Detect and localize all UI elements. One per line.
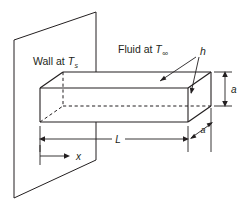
- wall-label-text: Wall at: [33, 55, 68, 67]
- fin-front-face: [40, 88, 188, 122]
- fin-top-face: [40, 72, 211, 88]
- h-label: h: [200, 45, 206, 57]
- dimension-height-a: [214, 71, 232, 107]
- wall-edge-top: [14, 12, 96, 40]
- fluid-label: Fluid at T∞: [118, 43, 168, 58]
- wall-edge-bottom: [14, 160, 96, 198]
- wall-label: Wall at Ts: [33, 55, 79, 69]
- heat-transfer-fin-diagram: Wall at Ts Fluid at T∞ h L a a x: [0, 0, 245, 211]
- dimension-length-L: [39, 126, 189, 152]
- fluid-label-subscript: ∞: [162, 49, 168, 58]
- depth-label: a: [200, 125, 205, 135]
- height-label: a: [231, 84, 237, 95]
- coordinate-axis-x: [40, 145, 70, 165]
- wall-label-subscript: s: [75, 62, 79, 69]
- diagram-canvas: Wall at Ts Fluid at T∞ h L a a x: [0, 0, 245, 211]
- length-label: L: [115, 134, 121, 145]
- x-coordinate-label: x: [75, 151, 82, 162]
- x-arrowhead: [64, 153, 70, 159]
- fluid-label-text: Fluid at: [118, 43, 155, 55]
- fin-body: [40, 72, 211, 122]
